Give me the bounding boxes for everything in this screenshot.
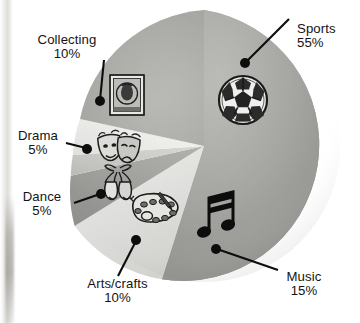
label-collecting: Collecting 10% (22, 33, 112, 62)
label-sports-name: Sports (297, 21, 336, 36)
label-sports-percent: 55% (297, 36, 336, 50)
label-music-percent: 15% (275, 284, 333, 298)
label-artscrafts: Arts/crafts 10% (69, 277, 166, 306)
label-drama: Drama 5% (10, 129, 66, 158)
label-artscrafts-name: Arts/crafts (87, 276, 147, 291)
label-sports: Sports 55% (297, 22, 336, 51)
label-music-name: Music (287, 269, 322, 284)
postage-stamp-icon (110, 75, 144, 115)
label-dance-name: Dance (23, 189, 62, 204)
label-music: Music 15% (275, 270, 333, 299)
leader-dot-drama (82, 144, 92, 154)
soccer-ball-icon (219, 76, 267, 124)
leader-dot-dance (96, 189, 106, 199)
leader-dot-collecting (95, 96, 105, 106)
leader-dot-music (211, 244, 221, 254)
label-dance: Dance 5% (13, 190, 71, 219)
label-collecting-percent: 10% (22, 47, 112, 61)
label-collecting-name: Collecting (38, 32, 97, 47)
label-dance-percent: 5% (13, 204, 71, 218)
leader-dot-artscrafts (131, 235, 141, 245)
label-drama-percent: 5% (10, 143, 66, 157)
pie-chart-figure: Sports 55% Collecting 10% Drama 5% Dance… (0, 0, 360, 323)
leader-dot-sports (240, 58, 250, 68)
label-drama-name: Drama (18, 128, 58, 143)
label-artscrafts-percent: 10% (69, 291, 166, 305)
